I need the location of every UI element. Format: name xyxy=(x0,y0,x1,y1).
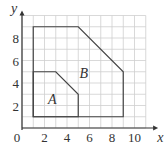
x-axis-label: x xyxy=(156,130,164,145)
x-tick-label: 8 xyxy=(109,130,116,145)
origin-label: 0 xyxy=(14,130,21,145)
coordinate-grid-diagram: x y 0 246810 2468 A B xyxy=(0,0,167,149)
shape-a-label: A xyxy=(47,92,57,107)
x-tick-label: 4 xyxy=(64,130,71,145)
y-tick-labels: 2468 xyxy=(13,31,20,114)
axes xyxy=(20,10,159,130)
labels: x y 0 246810 2468 A B xyxy=(9,1,164,145)
x-tick-labels: 246810 xyxy=(41,130,141,145)
shape-b-label: B xyxy=(80,66,89,81)
x-tick-label: 6 xyxy=(86,130,93,145)
y-axis-label: y xyxy=(9,1,18,16)
y-tick-label: 2 xyxy=(13,99,20,114)
y-tick-label: 6 xyxy=(13,54,20,69)
y-tick-label: 8 xyxy=(13,31,20,46)
x-tick-label: 2 xyxy=(41,130,48,145)
y-axis-arrow-icon xyxy=(20,10,25,15)
y-tick-label: 4 xyxy=(13,76,20,91)
x-tick-label: 10 xyxy=(128,130,141,145)
